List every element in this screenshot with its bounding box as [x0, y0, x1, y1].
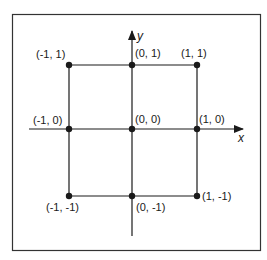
point-marker [129, 62, 135, 68]
point-marker [194, 126, 200, 132]
point-marker [129, 193, 135, 199]
point-label: (1, 0) [199, 113, 225, 125]
point-label: (-1, 1) [36, 48, 65, 60]
point-label: (-1, 0) [33, 114, 62, 126]
coordinate-diagram: x y (-1, 1)(0, 1)(1, 1)(-1, 0)(0, 0)(1, … [0, 0, 267, 260]
point-marker [194, 62, 200, 68]
point-marker [66, 126, 72, 132]
point-label: (0, 0) [135, 113, 161, 125]
point-label: (0, 1) [135, 47, 161, 59]
point-marker [194, 193, 200, 199]
y-axis-label: y [136, 29, 144, 43]
x-axis-label: x [237, 131, 245, 145]
point-marker [66, 193, 72, 199]
point-label: (0, -1) [136, 201, 165, 213]
point-marker [129, 126, 135, 132]
point-label: (1, -1) [202, 190, 231, 202]
point-label: (1, 1) [181, 47, 207, 59]
point-marker [66, 62, 72, 68]
point-label: (-1, -1) [46, 201, 79, 213]
points-group [66, 62, 200, 199]
